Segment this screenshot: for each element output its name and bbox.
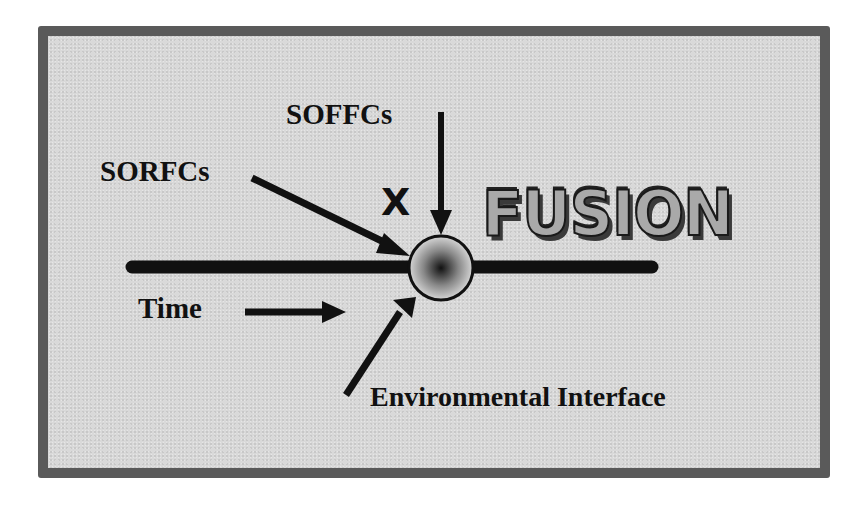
soffcs-arrow-icon bbox=[430, 112, 452, 235]
fusion-core-circle bbox=[409, 236, 473, 300]
fusion-title: FUSION bbox=[482, 176, 732, 250]
environmental-interface-label: Environmental Interface bbox=[370, 381, 666, 413]
time-arrow-icon bbox=[245, 301, 346, 323]
x-mark-label: X bbox=[381, 180, 410, 224]
time-label: Time bbox=[138, 292, 202, 325]
sorfcs-label: SORFCs bbox=[100, 155, 210, 188]
diagram-graphics bbox=[0, 0, 865, 509]
soffcs-label: SOFFCs bbox=[286, 98, 392, 131]
